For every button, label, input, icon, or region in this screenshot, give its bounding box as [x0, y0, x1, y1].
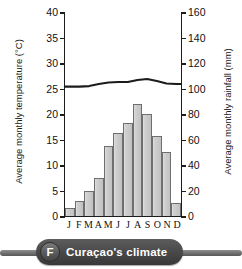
right-tick	[181, 63, 186, 64]
rainfall-bar	[84, 191, 94, 217]
rainfall-bar	[94, 178, 104, 216]
right-tick-label: 120	[188, 58, 222, 69]
right-tick-label: 40	[188, 160, 222, 171]
right-tick-label: 100	[188, 84, 222, 95]
left-tick-label: 5	[24, 186, 58, 197]
right-tick-label: 0	[188, 211, 222, 222]
rainfall-bar	[113, 133, 123, 216]
bar-cell	[113, 13, 123, 216]
month-axis-labels: JFMAMJJASOND	[64, 219, 182, 230]
rainfall-bar	[142, 114, 152, 216]
right-tick	[181, 12, 186, 13]
bar-cell	[133, 13, 143, 216]
rainfall-bar	[152, 136, 162, 216]
left-tick-label: 15	[24, 135, 58, 146]
left-tick-label: 20	[24, 109, 58, 120]
bar-cell	[123, 13, 133, 216]
rainfall-bar	[162, 152, 172, 216]
rainfall-bars	[65, 13, 181, 216]
month-label: J	[64, 219, 74, 230]
month-label: J	[113, 219, 123, 230]
bar-cell	[65, 13, 75, 216]
right-tick-label: 60	[188, 135, 222, 146]
rainfall-bar	[75, 201, 85, 216]
bar-cell	[94, 13, 104, 216]
month-label: D	[172, 219, 182, 230]
left-tick-label: 30	[24, 58, 58, 69]
right-tick-label: 160	[188, 7, 222, 18]
rainfall-bar	[123, 123, 133, 216]
caption-badge-icon: F	[40, 242, 60, 262]
month-label: F	[74, 219, 84, 230]
plot-area: 0510152025303540 020406080100120140160	[64, 13, 182, 217]
right-tick	[181, 140, 186, 141]
bar-cell	[162, 13, 172, 216]
month-label: A	[133, 219, 143, 230]
bar-cell	[75, 13, 85, 216]
left-tick	[60, 216, 65, 217]
bar-cell	[171, 13, 181, 216]
month-label: A	[93, 219, 103, 230]
right-tick-label: 80	[188, 109, 222, 120]
caption-badge-letter: F	[46, 246, 53, 258]
bar-cell	[152, 13, 162, 216]
right-tick	[181, 165, 186, 166]
bar-cell	[104, 13, 114, 216]
right-tick-label: 140	[188, 33, 222, 44]
rainfall-bar	[104, 146, 114, 216]
month-label: N	[162, 219, 172, 230]
month-label: S	[143, 219, 153, 230]
left-axis-title: Average monthly temperature (°C)	[13, 17, 24, 207]
month-label: O	[152, 219, 162, 230]
bar-cell	[84, 13, 94, 216]
right-tick	[181, 191, 186, 192]
rainfall-bar	[133, 104, 143, 216]
right-tick	[181, 89, 186, 90]
left-tick-label: 35	[24, 33, 58, 44]
climate-chart-figure: Average monthly temperature (°C) Average…	[0, 0, 242, 269]
left-tick-label: 40	[24, 7, 58, 18]
right-tick	[181, 38, 186, 39]
month-label: M	[103, 219, 113, 230]
caption-label: Curaçao's climate	[66, 246, 167, 258]
figure-caption: Curaçao's climate F	[0, 237, 242, 269]
left-tick-label: 10	[24, 160, 58, 171]
month-label: M	[84, 219, 94, 230]
bar-cell	[142, 13, 152, 216]
right-axis-title: Average monthly rainfall (mm)	[222, 17, 233, 207]
right-tick	[181, 114, 186, 115]
left-tick-label: 25	[24, 84, 58, 95]
rainfall-bar	[171, 203, 181, 216]
month-label: J	[123, 219, 133, 230]
rainfall-bar	[65, 208, 75, 216]
left-tick-label: 0	[24, 211, 58, 222]
right-tick	[181, 216, 186, 217]
right-tick-label: 20	[188, 186, 222, 197]
